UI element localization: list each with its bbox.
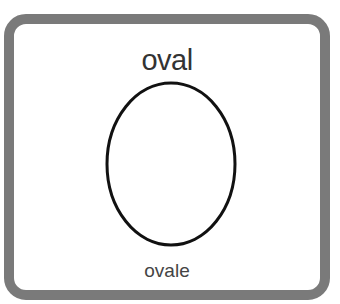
vocabulary-card: oval ovale xyxy=(4,14,330,300)
oval-shape-icon xyxy=(104,80,238,248)
card-caption: ovale xyxy=(14,261,320,280)
card-title: oval xyxy=(14,46,320,75)
